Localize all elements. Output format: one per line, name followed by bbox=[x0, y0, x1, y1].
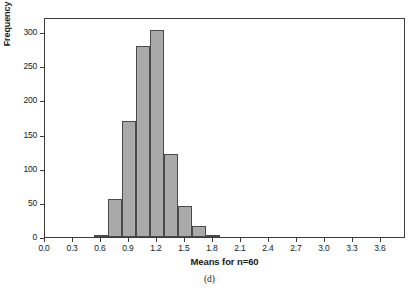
x-tick-mark bbox=[44, 238, 45, 242]
x-tick-mark bbox=[380, 238, 381, 242]
y-axis-tick: 150 bbox=[0, 136, 44, 137]
plot-area bbox=[44, 18, 405, 238]
x-tick-label: 1.8 bbox=[200, 243, 224, 253]
x-tick-label: 0.0 bbox=[32, 243, 56, 253]
y-tick-label: 250 bbox=[23, 61, 37, 71]
x-tick-label: 0.9 bbox=[116, 243, 140, 253]
y-axis-tick: 50 bbox=[0, 204, 44, 205]
x-tick-mark bbox=[100, 238, 101, 242]
histogram-bar bbox=[206, 235, 220, 237]
y-axis-tick: 250 bbox=[0, 67, 44, 68]
x-tick-label: 3.6 bbox=[368, 243, 392, 253]
x-tick-mark bbox=[212, 238, 213, 242]
y-axis-tick: 200 bbox=[0, 101, 44, 102]
y-axis-tick: 100 bbox=[0, 170, 44, 171]
x-tick-mark bbox=[72, 238, 73, 242]
x-tick-label: 2.1 bbox=[228, 243, 252, 253]
x-tick-label: 1.2 bbox=[144, 243, 168, 253]
histogram-bar bbox=[136, 46, 150, 237]
x-tick-mark bbox=[268, 238, 269, 242]
y-tick-label: 150 bbox=[23, 130, 37, 140]
y-axis-tick: 0 bbox=[0, 238, 44, 239]
x-tick-label: 2.7 bbox=[284, 243, 308, 253]
x-tick-label: 0.6 bbox=[88, 243, 112, 253]
figure-caption: (d) bbox=[0, 274, 419, 284]
x-axis-title: Means for n=60 bbox=[44, 256, 405, 267]
histogram-bar bbox=[192, 226, 206, 237]
histogram-bar bbox=[122, 121, 136, 237]
y-tick-label: 50 bbox=[28, 198, 37, 208]
x-tick-label: 0.3 bbox=[60, 243, 84, 253]
x-tick-label: 2.4 bbox=[256, 243, 280, 253]
x-tick-mark bbox=[240, 238, 241, 242]
x-tick-label: 3.0 bbox=[312, 243, 336, 253]
histogram-figure: Frequency 050100150200250300 0.00.30.60.… bbox=[0, 0, 419, 291]
y-axis-tick: 300 bbox=[0, 33, 44, 34]
x-tick-mark bbox=[156, 238, 157, 242]
histogram-bar bbox=[178, 206, 192, 237]
x-tick-label: 1.5 bbox=[172, 243, 196, 253]
x-tick-label: 3.3 bbox=[340, 243, 364, 253]
y-tick-label: 200 bbox=[23, 95, 37, 105]
histogram-bar bbox=[108, 199, 122, 237]
x-tick-mark bbox=[296, 238, 297, 242]
x-tick-mark bbox=[324, 238, 325, 242]
y-axis-title: Frequency bbox=[2, 0, 16, 84]
y-tick-label: 0 bbox=[32, 232, 37, 242]
x-tick-mark bbox=[352, 238, 353, 242]
histogram-bar bbox=[94, 235, 108, 237]
histogram-bar bbox=[164, 154, 178, 237]
histogram-bars bbox=[45, 19, 404, 237]
histogram-bar bbox=[150, 30, 164, 237]
y-tick-label: 100 bbox=[23, 164, 37, 174]
y-tick-label: 300 bbox=[23, 27, 37, 37]
x-tick-mark bbox=[184, 238, 185, 242]
x-tick-mark bbox=[128, 238, 129, 242]
